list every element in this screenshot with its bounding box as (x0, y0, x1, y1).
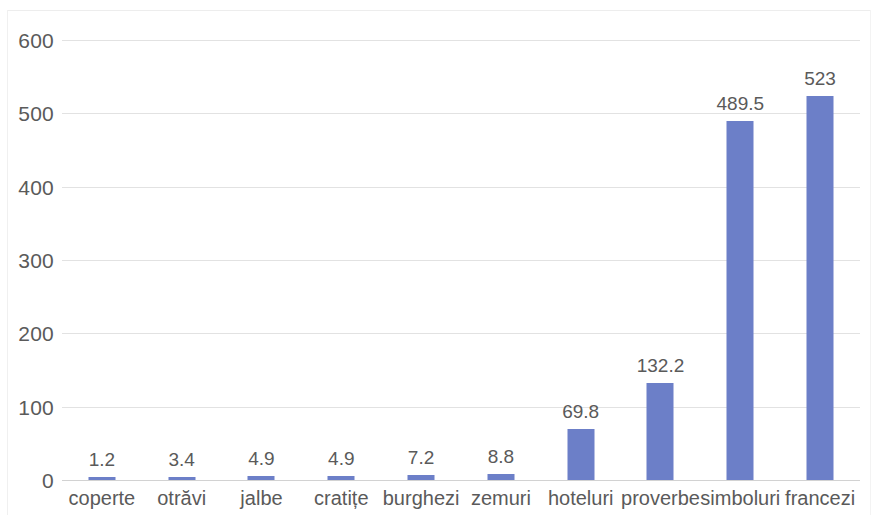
bar[interactable] (168, 477, 195, 480)
bar-slot: 132.2 (621, 40, 701, 480)
bar[interactable] (248, 476, 275, 480)
bar-value-label: 4.9 (248, 449, 274, 468)
bar-slot: 489.5 (700, 40, 780, 480)
bar-value-label: 3.4 (168, 450, 194, 469)
gridline (62, 480, 860, 481)
bar-value-label: 8.8 (488, 447, 514, 466)
bar-slot: 1.2 (62, 40, 142, 480)
bar-slot: 4.9 (222, 40, 302, 480)
x-axis-tick-label: francezi (785, 487, 855, 509)
bar[interactable] (727, 121, 754, 480)
bar[interactable] (328, 476, 355, 480)
bar-value-label: 523 (804, 69, 836, 88)
x-axis-tick-label: cratițe (314, 487, 368, 509)
bar[interactable] (807, 96, 834, 480)
x-axis-tick-label: coperte (69, 487, 136, 509)
bar-slot: 8.8 (461, 40, 541, 480)
y-axis-tick-label: 100 (2, 397, 54, 418)
y-axis-tick-label: 500 (2, 103, 54, 124)
x-axis-tick-label: proverbe (621, 487, 700, 509)
x-axis-tick-label: jalbe (240, 487, 282, 509)
bar-value-label: 7.2 (408, 448, 434, 467)
bar-chart: 0100200300400500600 1.23.44.94.97.28.869… (0, 0, 878, 523)
bar-value-label: 132.2 (637, 356, 685, 375)
y-axis-tick-label: 0 (2, 470, 54, 491)
bar-slot: 523 (780, 40, 860, 480)
x-axis-tick-label: hoteluri (548, 487, 614, 509)
x-axis-tick-label: zemuri (471, 487, 531, 509)
x-axis-tick-label: otrăvi (157, 487, 206, 509)
x-axis-tick-label: simboluri (700, 487, 780, 509)
bar[interactable] (487, 474, 514, 480)
y-axis-tick-label: 400 (2, 177, 54, 198)
bar-value-label: 69.8 (562, 402, 599, 421)
bar-value-label: 4.9 (328, 449, 354, 468)
bar-slot: 69.8 (541, 40, 621, 480)
bar[interactable] (567, 429, 594, 480)
plot-area: 1.23.44.94.97.28.869.8132.2489.5523 (62, 40, 860, 480)
bar[interactable] (88, 477, 115, 480)
bar-value-label: 1.2 (89, 450, 115, 469)
bar[interactable] (647, 383, 674, 480)
bar-slot: 3.4 (142, 40, 222, 480)
bar[interactable] (408, 475, 435, 480)
chart-frame-top (7, 10, 871, 11)
chart-frame-right (870, 10, 871, 515)
bar-slot: 7.2 (381, 40, 461, 480)
bar-value-label: 489.5 (717, 94, 765, 113)
bar-slot: 4.9 (301, 40, 381, 480)
x-axis: coperteotrăvijalbecratițeburghezizemurih… (62, 487, 860, 517)
y-axis-tick-label: 200 (2, 323, 54, 344)
x-axis-tick-label: burghezi (383, 487, 460, 509)
y-axis-tick-label: 300 (2, 250, 54, 271)
y-axis-tick-label: 600 (2, 30, 54, 51)
y-axis: 0100200300400500600 (0, 40, 54, 480)
